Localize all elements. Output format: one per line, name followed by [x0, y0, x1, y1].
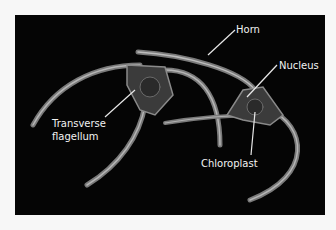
label-transverse-flagellum-line2: flagellum [52, 131, 99, 143]
label-horn: Horn [236, 24, 260, 36]
left-horn-right [165, 70, 220, 145]
label-transverse-flagellum-line1: Transverse [52, 118, 106, 130]
label-nucleus: Nucleus [279, 60, 319, 72]
left-horn-left [33, 65, 140, 125]
label-chloroplast: Chloroplast [201, 158, 258, 170]
left-horn-bottom [87, 105, 145, 185]
transverse-flagellum-leader [105, 90, 135, 117]
horn-leader [208, 30, 235, 55]
left-cell-texture [140, 77, 160, 97]
left-horn-bottom-highlight [87, 105, 145, 185]
right-horn-bottom [250, 110, 298, 200]
organism-drawing [15, 15, 325, 215]
left-horn-right-highlight [165, 70, 220, 145]
micrograph-panel: Horn Nucleus Transverse flagellum Chloro… [15, 15, 325, 215]
